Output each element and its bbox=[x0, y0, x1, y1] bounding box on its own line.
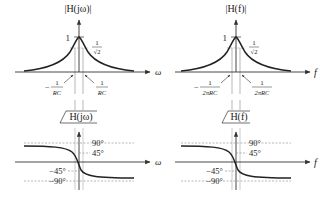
plot-title: H(jω) bbox=[69, 111, 92, 123]
x-axis-label: f bbox=[314, 157, 318, 168]
tick-45: 45° bbox=[92, 148, 104, 158]
neg-cutoff-sign: − bbox=[45, 83, 50, 92]
pos-cutoff-den: RC bbox=[97, 89, 107, 96]
neg-cutoff-den: 2πRC bbox=[203, 89, 218, 96]
neg-cutoff-num: 1 bbox=[208, 79, 212, 87]
tick-neg45: −45° bbox=[206, 166, 223, 176]
x-axis-label: ω bbox=[155, 67, 161, 77]
x-axis-label: ω bbox=[155, 157, 161, 167]
halfpower-num: 1 bbox=[252, 39, 256, 47]
pos-cutoff-den: 2πRC bbox=[255, 89, 270, 96]
plot-title: H(f) bbox=[230, 111, 247, 123]
pos-cutoff-num: 1 bbox=[100, 79, 104, 87]
neg-cutoff-den: RC bbox=[52, 89, 62, 96]
peak-label: 1 bbox=[223, 33, 228, 43]
tick-90: 90° bbox=[249, 138, 261, 148]
neg-cutoff-num: 1 bbox=[55, 79, 59, 87]
peak-label: 1 bbox=[66, 33, 71, 43]
magnitude-f-plot: |H(f)| 1 1 √2 f − 1 2πRC 1 2πRC bbox=[175, 3, 318, 96]
tick-90: 90° bbox=[92, 138, 104, 148]
tick-45: 45° bbox=[249, 148, 261, 158]
halfpower-den: √2 bbox=[251, 48, 258, 55]
phase-omega-plot: H(jω) 90° 45° −45° −90° ω bbox=[15, 100, 161, 190]
tick-neg90: −90° bbox=[206, 176, 223, 186]
neg-cutoff-sign: − bbox=[194, 83, 199, 92]
tick-neg90: −90° bbox=[49, 176, 66, 186]
x-axis-label: f bbox=[314, 67, 318, 78]
halfpower-num: 1 bbox=[95, 39, 99, 47]
tick-neg45: −45° bbox=[49, 166, 66, 176]
pos-cutoff-num: 1 bbox=[260, 79, 264, 87]
phase-f-plot: H(f) 90° 45° −45° −90° f bbox=[175, 100, 318, 190]
halfpower-den: √2 bbox=[94, 48, 101, 55]
plot-title: |H(jω)| bbox=[64, 3, 91, 15]
plot-title: |H(f)| bbox=[225, 3, 246, 15]
magnitude-omega-plot: |H(jω)| 1 1 √2 ω − 1 RC 1 RC bbox=[15, 3, 161, 96]
